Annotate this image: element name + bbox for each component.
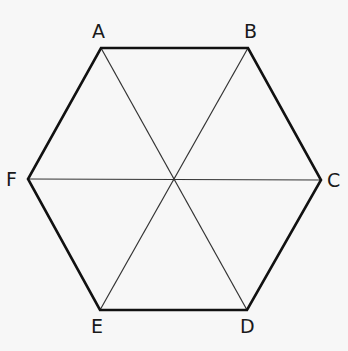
- hexagon-diagram: A B C D E F: [0, 0, 348, 351]
- vertex-label-b: B: [244, 20, 257, 42]
- vertex-label-d: D: [240, 315, 255, 337]
- vertex-label-e: E: [91, 315, 103, 337]
- vertex-label-a: A: [92, 20, 105, 42]
- diagonal-cf: [28, 179, 321, 180]
- vertex-label-c: C: [327, 169, 340, 191]
- vertex-label-f: F: [6, 168, 17, 190]
